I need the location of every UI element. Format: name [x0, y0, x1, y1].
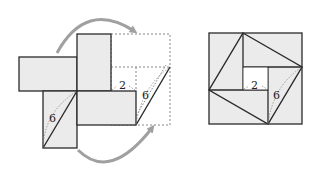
- left-figure: 6 2 6: [19, 20, 170, 162]
- diagram-canvas: 6 2 6 2 6: [0, 0, 321, 177]
- label-hyp-six: 6: [273, 89, 280, 102]
- top-vertical-rect: [77, 34, 111, 91]
- label-gap-two: 2: [119, 79, 126, 92]
- left-horizontal-rect: [19, 57, 77, 91]
- arrow-bottom-rotate: [78, 128, 152, 162]
- middle-horizontal-rect: [77, 91, 136, 125]
- right-figure: 2 6: [209, 33, 302, 124]
- label-inner-two: 2: [251, 79, 258, 92]
- label-right-six: 6: [142, 89, 149, 102]
- label-left-six: 6: [49, 112, 56, 125]
